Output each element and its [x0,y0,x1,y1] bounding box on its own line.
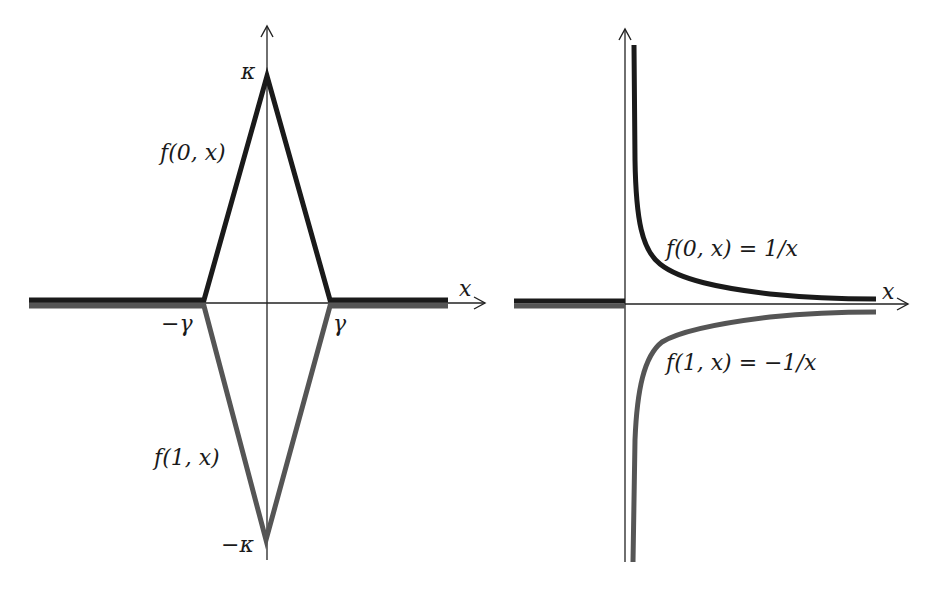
neg-kappa-label: −κ [221,532,254,557]
f0-label: f(0, x) [158,140,226,165]
figure-canvas: x κ −κ −γ γ f(0, x) f(1, x) x f(0, x) = … [0,0,929,590]
f1-label: f(1, x) [152,445,220,470]
left-x-axis-label: x [459,276,472,301]
f1-tent-line [29,306,448,540]
gamma-label: γ [333,311,347,336]
f1-reciprocal-label: f(1, x) = −1/x [664,350,817,375]
right-panel: x f(0, x) = 1/x f(1, x) = −1/x [514,29,908,562]
f0-reciprocal-label: f(0, x) = 1/x [664,236,799,261]
left-panel: x κ −κ −γ γ f(0, x) f(1, x) [29,26,485,560]
neg-gamma-label: −γ [161,311,193,336]
right-x-axis-label: x [882,279,895,304]
kappa-label: κ [240,59,256,84]
f0-tent-line [29,76,448,300]
